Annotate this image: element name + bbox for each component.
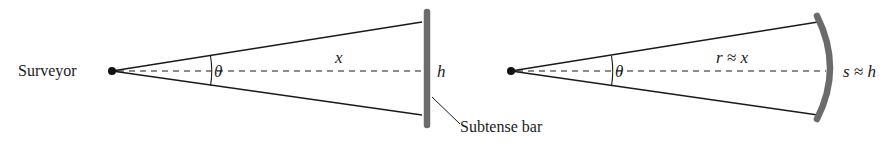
angle-arc	[612, 56, 613, 86]
arc-length-approx-label: s ≈ h	[843, 62, 876, 81]
theta-label: θ	[615, 62, 623, 81]
right-diagram: θ r ≈ x s ≈ h	[507, 16, 876, 119]
surveyor-label: Surveyor	[18, 62, 77, 80]
curved-arc-bar	[817, 16, 830, 119]
subtense-bar-label: Subtense bar	[460, 118, 543, 135]
surveyor-point	[108, 67, 116, 75]
distance-x-label: x	[334, 48, 343, 67]
height-h-label: h	[437, 62, 446, 81]
lower-sight-line	[112, 71, 422, 115]
lower-radius-line	[511, 71, 818, 115]
vertex-point	[507, 67, 515, 75]
upper-sight-line	[112, 22, 422, 71]
callout-leader-line	[432, 97, 460, 124]
radius-approx-label: r ≈ x	[716, 48, 748, 67]
upper-radius-line	[511, 22, 818, 71]
theta-label: θ	[214, 62, 222, 81]
left-diagram: Surveyor θ x h Subtense bar	[18, 12, 543, 135]
subtense-bar-diagram: Surveyor θ x h Subtense bar θ r ≈ x s ≈ …	[0, 0, 895, 146]
